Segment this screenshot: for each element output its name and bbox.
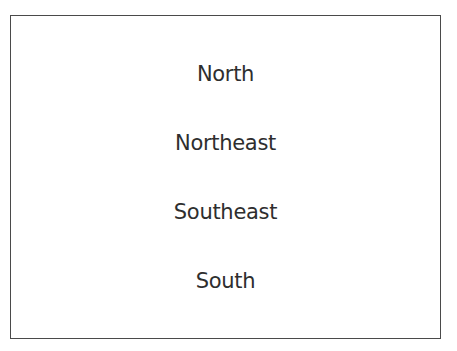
item-northeast: Northeast <box>11 131 440 155</box>
item-southeast: Southeast <box>11 200 440 224</box>
item-south: South <box>11 269 440 293</box>
item-north: North <box>11 62 440 86</box>
diagram-frame: North Northeast Southeast South <box>10 15 441 339</box>
